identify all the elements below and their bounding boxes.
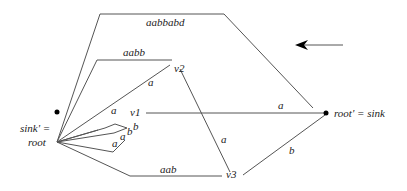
- label-left-node-line1: sink' =: [20, 122, 50, 134]
- label-v1-a2: a: [120, 130, 126, 142]
- label-v1-b2: b: [127, 125, 133, 137]
- label-v2-v3-a: a: [221, 133, 227, 145]
- label-node-v3: v3: [226, 168, 237, 180]
- label-v1-loop-a: a: [111, 104, 117, 116]
- label-right-node: root' = sink: [334, 107, 386, 119]
- label-v1-right-a: a: [278, 99, 284, 111]
- label-edge-aab: aab: [160, 163, 177, 175]
- label-v1-b1: b: [133, 120, 139, 132]
- label-node-v2: v2: [174, 62, 185, 74]
- diagram-labels: aabbabd aabb v2 a a v1 b b a a a a b aab…: [0, 0, 407, 191]
- label-edge-aabb: aabb: [123, 46, 146, 58]
- label-left-node-line2: root: [28, 136, 47, 148]
- label-edge-top: aabbabd: [146, 16, 185, 28]
- label-v3-right: b: [289, 144, 295, 156]
- label-node-v1: v1: [130, 106, 140, 118]
- label-edge-v2-a: a: [148, 76, 154, 88]
- label-v1-a3: a: [112, 137, 118, 149]
